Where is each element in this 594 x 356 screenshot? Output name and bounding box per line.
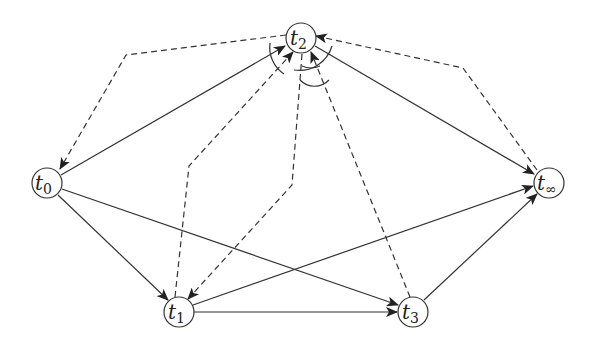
node-t2: t2 <box>286 23 316 53</box>
node-sub-tinf: ∞ <box>545 181 557 197</box>
dashed-edge-t2-t1 <box>188 54 302 299</box>
node-tinf: t∞ <box>534 168 564 198</box>
edge-t0-t2 <box>61 46 285 175</box>
edge-t2-tinf <box>315 46 534 174</box>
dashed-edge-t1-t2 <box>175 52 293 297</box>
solid-edges <box>58 46 537 312</box>
dashed-edge-tinf-t2 <box>316 36 537 170</box>
edge-t3-tinf <box>424 194 537 300</box>
angle-arc-bottom <box>300 80 329 86</box>
node-t0: t0 <box>32 168 62 198</box>
node-t1: t1 <box>164 297 194 327</box>
dashed-edges <box>60 35 537 299</box>
node-sub-t2: 2 <box>298 36 307 52</box>
dashed-edge-t2-t0 <box>60 35 286 169</box>
node-sub-t0: 0 <box>43 181 52 197</box>
edge-t0-t1 <box>58 195 168 300</box>
node-sub-t3: 3 <box>410 310 419 326</box>
graph-diagram: t0 t1 t2 t3 t∞ <box>0 0 594 356</box>
dashed-edge-t3-t2 <box>311 52 410 297</box>
node-sub-t1: 1 <box>176 310 185 326</box>
node-t3: t3 <box>398 297 428 327</box>
angle-arc-right-inner <box>302 66 320 68</box>
